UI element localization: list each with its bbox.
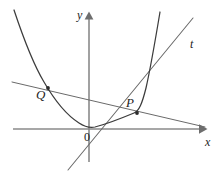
tangent-line-label: t	[190, 38, 193, 50]
point-marker-q	[46, 86, 50, 90]
parabola-curve	[14, 10, 160, 127]
tangent-line-t	[68, 18, 193, 170]
origin-label: 0	[84, 131, 90, 143]
x-axis-label: x	[205, 136, 210, 148]
point-label-q: Q	[36, 88, 45, 101]
point-marker-p	[135, 111, 139, 115]
y-axis-label: y	[77, 9, 82, 21]
point-label-p: P	[126, 96, 134, 109]
math-figure-parabola-secant-tangent: y x 0 Q P t	[0, 0, 223, 175]
figure-canvas	[0, 0, 223, 175]
y-axis-arrowhead	[85, 12, 94, 20]
